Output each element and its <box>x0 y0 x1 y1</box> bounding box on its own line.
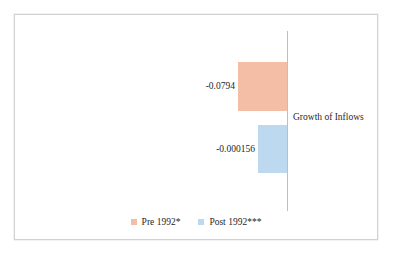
legend-item-pre-1992[interactable]: Pre 1992* <box>131 217 181 227</box>
chart-frame: -0.0794 -0.000156 Growth of Inflows Pre … <box>14 14 378 240</box>
chart-figure: -0.0794 -0.000156 Growth of Inflows Pre … <box>0 0 396 254</box>
value-label-pre-1992: -0.0794 <box>155 81 235 91</box>
legend-label-post-1992: Post 1992*** <box>209 217 261 227</box>
value-label-post-1992: -0.000156 <box>155 144 255 154</box>
zero-axis-line <box>287 31 288 211</box>
category-axis-label: Growth of Inflows <box>293 112 364 122</box>
legend-item-post-1992[interactable]: Post 1992*** <box>198 217 261 227</box>
bar-post-1992[interactable] <box>258 125 287 173</box>
bar-pre-1992[interactable] <box>238 62 287 111</box>
plot-area: -0.0794 -0.000156 Growth of Inflows Pre … <box>15 15 377 239</box>
legend-swatch-pre-1992-icon <box>131 219 137 225</box>
legend-label-pre-1992: Pre 1992* <box>142 217 181 227</box>
legend-swatch-post-1992-icon <box>198 219 204 225</box>
chart-legend: Pre 1992* Post 1992*** <box>15 217 377 227</box>
